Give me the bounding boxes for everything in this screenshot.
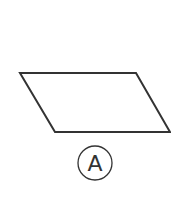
shape-label: A (87, 151, 102, 176)
diagram-canvas: A (0, 0, 171, 204)
parallelogram-shape (20, 73, 170, 132)
